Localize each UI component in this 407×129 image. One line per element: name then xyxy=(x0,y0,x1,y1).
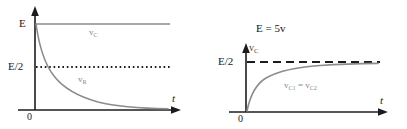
charge-x-axis-label: t xyxy=(380,95,383,106)
chart-panel-discharge: E E/2 0 t vC vR xyxy=(0,0,204,129)
discharge-chart-svg xyxy=(0,0,204,129)
discharge-y-tick-E-half: E/2 xyxy=(8,61,23,72)
discharge-y-tick-E: E xyxy=(19,18,26,29)
charge-x-axis xyxy=(229,108,388,116)
charge-chart-title: E = 5v xyxy=(256,23,285,34)
discharge-series-label-vr: vR xyxy=(78,75,87,85)
discharge-x-axis xyxy=(18,106,181,114)
charge-y-tick-E-half: E/2 xyxy=(218,56,233,67)
figure-root: E E/2 0 t vC vR xyxy=(0,0,407,129)
charge-y-axis-label: vC xyxy=(249,43,259,55)
discharge-origin-label: 0 xyxy=(27,112,32,122)
charge-origin-label: 0 xyxy=(238,114,243,124)
charge-series-label-vc1-vc2: vC1 = vC2 xyxy=(284,81,317,91)
discharge-series-label-vc: vC xyxy=(89,28,98,38)
chart-panel-charge: E = 5v vC E/2 0 t vC1 = vC2 xyxy=(204,0,407,129)
charge-chart-svg xyxy=(204,0,407,129)
discharge-y-axis xyxy=(31,6,39,110)
discharge-x-axis-label: t xyxy=(172,93,175,104)
